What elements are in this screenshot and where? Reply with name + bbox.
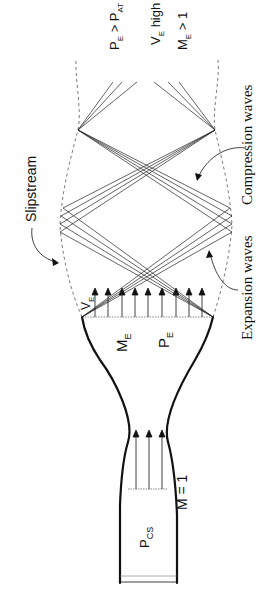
label-chamber-pressure: PCS xyxy=(137,527,155,548)
label-throat-mach: M = 1 xyxy=(174,474,190,510)
label-exit-mach: ME xyxy=(113,333,133,352)
svg-text:ME: ME xyxy=(113,333,133,352)
expansion-pointer xyxy=(210,253,238,290)
svg-text:Slipstream: Slipstream xyxy=(23,156,39,222)
label-slipstream: Slipstream xyxy=(23,156,39,222)
nozzle-plume-diagram: PCS M = 1 VE ME PE Slipstream Expansion … xyxy=(0,0,267,592)
label-expansion-waves: Expansion waves xyxy=(239,235,255,340)
slipstream-boundaries xyxy=(60,60,232,317)
svg-text:VE: VE xyxy=(79,297,96,310)
svg-text:M = 1: M = 1 xyxy=(174,474,190,510)
label-condition-mach: ME > 1 xyxy=(175,12,193,50)
svg-text:Compression waves: Compression waves xyxy=(239,84,255,205)
svg-text:Expansion waves: Expansion waves xyxy=(239,235,255,340)
slipstream-pointer xyxy=(32,228,56,262)
wave-lines xyxy=(60,82,232,317)
label-exit-velocity: VE xyxy=(79,297,96,310)
label-condition-pressure: PE > PAT xyxy=(107,3,125,50)
compression-pointer xyxy=(198,148,245,178)
svg-text:PCS: PCS xyxy=(137,527,155,548)
label-compression-waves: Compression waves xyxy=(239,84,255,205)
svg-text:PE: PE xyxy=(155,332,175,348)
svg-text:PE > PAT: PE > PAT xyxy=(107,3,125,50)
exit-velocity-arrows xyxy=(92,288,205,317)
svg-text:VE high: VE high xyxy=(148,3,166,45)
label-condition-velocity: VE high xyxy=(148,3,166,45)
label-exit-pressure: PE xyxy=(155,332,175,348)
throat-velocity-arrows xyxy=(133,430,165,489)
svg-text:ME > 1: ME > 1 xyxy=(175,12,193,50)
